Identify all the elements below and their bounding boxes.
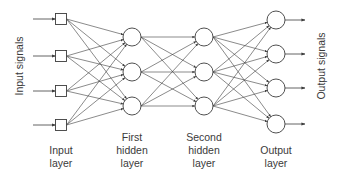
connection-arrow [213, 22, 267, 37]
output-neuron [267, 115, 285, 133]
connection-arrow [213, 60, 269, 106]
input-signals-label: Input signals [13, 37, 25, 96]
output-neuron [267, 11, 285, 29]
output-signals-label: Output signals [315, 32, 327, 99]
neural-network-diagram: InputlayerFirsthiddenlayerSecondhiddenla… [0, 0, 341, 177]
input-node [56, 120, 67, 131]
connection-arrow [141, 37, 198, 99]
connection-arrow [67, 44, 127, 125]
input-node [56, 14, 67, 25]
output-layer-label: Output [260, 144, 292, 156]
hidden1-neuron [123, 97, 141, 115]
output-layer-label: layer [265, 157, 288, 169]
hidden1-layer-label: layer [121, 157, 144, 169]
input-node [56, 51, 67, 62]
hidden1-neuron [123, 28, 141, 46]
hidden2-layer-label: layer [193, 157, 216, 169]
connection-arrow [141, 37, 196, 68]
hidden1-layer-label: hidden [116, 144, 148, 156]
connection-arrow [67, 56, 125, 101]
connection-arrow [67, 19, 124, 35]
connection-arrow [67, 109, 124, 125]
connection-arrow [213, 106, 267, 122]
hidden2-neuron [195, 97, 213, 115]
connection-arrow [67, 78, 126, 125]
connections [33, 19, 305, 125]
output-neuron [267, 45, 285, 63]
layer-labels: InputlayerFirsthiddenlayerSecondhiddenla… [49, 131, 292, 169]
output-neuron [267, 79, 285, 97]
hidden2-layer-label: hidden [188, 144, 220, 156]
connection-arrow [67, 19, 126, 66]
connection-arrow [213, 90, 267, 106]
connection-arrow [67, 43, 126, 91]
connection-arrow [67, 19, 127, 99]
input-node [56, 86, 67, 97]
connection-arrow [141, 76, 196, 106]
hidden2-layer-label: Second [186, 131, 222, 143]
hidden2-neuron [195, 28, 213, 46]
input-layer-label: layer [50, 157, 73, 169]
hidden1-layer-label: First [122, 131, 142, 143]
input-layer-label: Input [49, 144, 72, 156]
hidden1-neuron [123, 63, 141, 81]
hidden2-neuron [195, 63, 213, 81]
